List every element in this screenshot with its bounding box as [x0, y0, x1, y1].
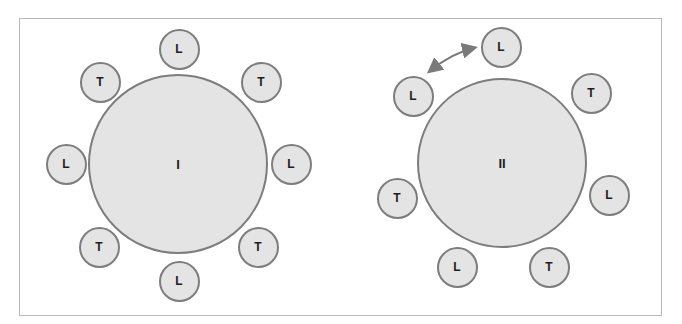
seat-label: T	[95, 240, 102, 254]
seat-label: T	[254, 240, 261, 254]
seat-label: L	[287, 157, 294, 171]
seat-label: T	[96, 75, 103, 89]
seat-l: L	[437, 247, 478, 288]
seat-label: L	[175, 42, 182, 56]
seat-t: T	[529, 247, 570, 288]
seat-t: T	[571, 73, 612, 114]
seat-label: L	[62, 157, 69, 171]
seat-label: T	[393, 191, 400, 205]
seat-label: L	[497, 40, 504, 54]
seat-l: L	[159, 29, 200, 70]
seat-label: T	[257, 75, 264, 89]
round-table-1: I	[88, 74, 268, 254]
seat-t: T	[238, 227, 279, 268]
seat-l: L	[393, 76, 434, 117]
round-table-2: II	[417, 78, 587, 248]
seat-t: T	[80, 62, 121, 103]
seat-label: L	[605, 188, 612, 202]
seat-t: T	[241, 62, 282, 103]
seat-l: L	[271, 144, 312, 185]
seat-l: L	[159, 261, 200, 302]
seat-l: L	[481, 27, 522, 68]
seat-t: T	[79, 227, 120, 268]
seat-l: L	[589, 175, 630, 216]
seat-label: T	[587, 86, 594, 100]
seat-t: T	[377, 178, 418, 219]
seat-label: L	[453, 260, 460, 274]
seat-label: L	[409, 89, 416, 103]
table-label: II	[498, 156, 505, 171]
table-label: I	[176, 157, 180, 172]
seat-label: L	[175, 274, 182, 288]
seat-l: L	[46, 144, 87, 185]
seat-label: T	[545, 260, 552, 274]
